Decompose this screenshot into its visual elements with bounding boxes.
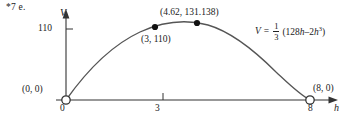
v-axis-tick-label-110: 110 — [38, 24, 52, 34]
volume-function-figure: *7 e. V h 110 0 3 8 (0, 0) (3, 110) (4.6… — [0, 0, 349, 125]
equation-lhs: V — [255, 27, 261, 37]
marker-dot-max — [194, 20, 200, 26]
equation-fraction: 1 3 — [273, 22, 279, 41]
equation-body: (128h–2h3) — [282, 26, 325, 38]
plot-area — [0, 0, 349, 125]
fraction-denominator: 3 — [273, 31, 279, 41]
problem-label: *7 e. — [6, 3, 25, 13]
h-axis-tick-label-0: 0 — [60, 104, 65, 114]
h-axis-label: h — [334, 103, 339, 113]
marker-dot-mid — [152, 24, 158, 30]
equation-close-paren: ) — [322, 27, 325, 37]
fraction-numerator: 1 — [273, 22, 279, 31]
v-axis-group — [63, 9, 73, 100]
h-axis-tick-label-8: 8 — [308, 104, 313, 114]
point-label-max: (4.62, 131.138) — [160, 8, 219, 18]
equation-annotation: V = 1 3 (128h–2h3) — [255, 22, 325, 41]
h-axis-tick-label-3: 3 — [155, 104, 160, 114]
equation-term1-coeff: 128 — [286, 27, 300, 37]
point-label-end: (8, 0) — [313, 84, 334, 94]
point-label-origin: (0, 0) — [22, 85, 43, 95]
point-label-mid: (3, 110) — [141, 35, 171, 45]
v-axis-label: V — [60, 8, 66, 18]
equation-equals-sign: = — [264, 27, 269, 37]
h-axis-group — [56, 93, 338, 103]
